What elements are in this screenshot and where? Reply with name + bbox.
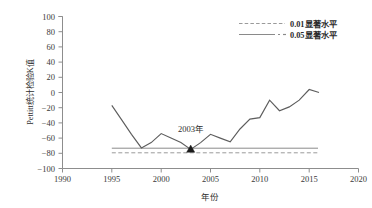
- y-tick-label: −100: [37, 164, 55, 174]
- change-point-annotation-label: 2003年: [178, 124, 204, 134]
- y-tick-label: 100: [42, 12, 55, 22]
- x-axis-tick-labels: 1990 1995 2000 2005 2010 2015 2020: [54, 174, 367, 184]
- y-tick-label: −60: [42, 133, 55, 143]
- y-tick-label: 60: [47, 42, 56, 52]
- x-tick-label: 1995: [103, 174, 120, 184]
- y-tick-label: 20: [47, 72, 56, 82]
- legend: 0.01显著水平 0.05显著水平: [239, 19, 338, 40]
- y-tick-label: 80: [47, 27, 56, 37]
- x-tick-label: 2020: [350, 174, 367, 184]
- y-axis-tick-labels: 100 80 60 40 20 0 −20 −40 −60 −80 −100: [37, 12, 55, 174]
- x-tick-label: 2000: [153, 174, 170, 184]
- y-tick-label: 0: [51, 88, 55, 98]
- x-tick-label: 1990: [54, 174, 71, 184]
- x-axis-title: 年份: [201, 192, 219, 202]
- y-tick-label: 40: [47, 57, 56, 67]
- pettitt-test-chart-figure: 100 80 60 40 20 0 −20 −40 −60 −80 −100 1…: [0, 0, 372, 208]
- y-axis-title: Pettitt统计检验K值: [25, 59, 35, 124]
- x-tick-label: 2015: [301, 174, 318, 184]
- y-tick-label: −40: [42, 118, 55, 128]
- y-tick-label: −80: [42, 148, 55, 158]
- x-axis-ticks: [63, 169, 359, 173]
- legend-item-label-0-05: 0.05显著水平: [290, 30, 338, 40]
- x-tick-label: 2010: [251, 174, 268, 184]
- y-axis-ticks: [59, 17, 63, 169]
- legend-item-label-0-01: 0.01显著水平: [290, 19, 338, 29]
- pettitt-k-series-line: [112, 90, 319, 150]
- x-tick-label: 2005: [202, 174, 219, 184]
- chart-canvas: 100 80 60 40 20 0 −20 −40 −60 −80 −100 1…: [0, 0, 372, 208]
- y-tick-label: −20: [42, 103, 55, 113]
